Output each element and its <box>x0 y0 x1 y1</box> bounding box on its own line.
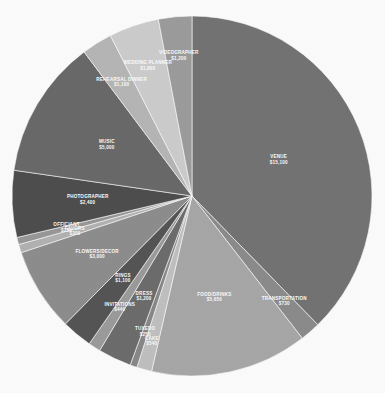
pie-label-value: $260 <box>61 228 72 233</box>
pie-label-value: $5,000 <box>99 145 114 150</box>
pie-label-value: $2,400 <box>80 200 95 205</box>
pie-label-value: $1,800 <box>140 66 155 71</box>
pie-label-category: FLOWERS/DECOR <box>75 249 119 254</box>
pie-label-value: $440 <box>114 307 125 312</box>
pie-label-category: PHOTOGRAPHER <box>67 194 109 199</box>
pie-label-rings: RINGS$1,100 <box>115 273 131 284</box>
pie-label-value: $540 <box>146 341 157 346</box>
pie-label-value: $15,100 <box>270 160 288 165</box>
pie-label-value: $250 <box>140 332 151 337</box>
pie-label-value: $1,100 <box>114 82 129 87</box>
pie-label-music: MUSIC$5,000 <box>99 139 115 150</box>
pie-label-value: $1,200 <box>136 296 151 301</box>
pie-label-category: FOOD/DRINKS <box>197 292 231 297</box>
pie-label-category: TRANSPORTATION <box>262 296 307 301</box>
pie-label-value: $1,100 <box>115 278 130 283</box>
pie-label-category: MUSIC <box>99 139 115 144</box>
pie-chart-container: VENUE$15,100TRANSPORTATION$730FOOD/DRINK… <box>0 0 385 393</box>
pie-label-cake: CAKE$540 <box>145 336 159 347</box>
pie-label-category: REHEARSAL DINNER <box>96 77 147 82</box>
pie-label-value: $5,650 <box>207 297 222 302</box>
pie-label-category: RINGS <box>115 273 131 278</box>
pie-label-category: DRESS <box>136 291 153 296</box>
pie-label-value: $730 <box>279 301 290 306</box>
pie-label-category: VIDEOGRAPHER <box>159 50 199 55</box>
pie-label-category: OFFICIANT <box>53 222 79 227</box>
pie-label-category: TUXEDO <box>135 326 156 331</box>
pie-label-category: VENUE <box>270 154 287 159</box>
pie-label-value: $1,200 <box>171 56 186 61</box>
pie-label-dress: DRESS$1,200 <box>136 291 153 302</box>
wedding-budget-pie-chart: VENUE$15,100TRANSPORTATION$730FOOD/DRINK… <box>0 0 385 393</box>
pie-label-category: INVITATIONS <box>104 302 135 307</box>
pie-label-value: $3,000 <box>90 254 105 259</box>
pie-label-category: WEDDING PLANNER <box>123 60 172 65</box>
pie-label-venue: VENUE$15,100 <box>270 154 288 165</box>
